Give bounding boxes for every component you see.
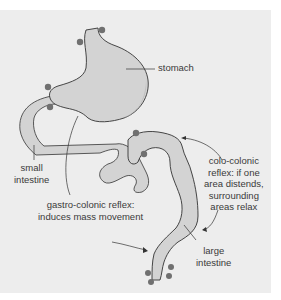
mass-movement-arrow [112, 242, 146, 250]
gastro-colonic-leader-line [66, 116, 78, 195]
digestive-reflex-diagram [0, 0, 281, 300]
label-stomach: stomach [158, 62, 194, 74]
label-large-intestine: large intestine [196, 245, 231, 268]
colo-colonic-arrow-lower [203, 210, 218, 230]
label-colo-colonic-reflex: colo-colonic reflex: if one area distend… [204, 155, 264, 213]
stomach-shape [49, 28, 148, 122]
label-small-intestine: small intestine [14, 162, 49, 185]
label-gastro-colonic-reflex: gastro-colonic reflex: induces mass move… [38, 199, 143, 222]
